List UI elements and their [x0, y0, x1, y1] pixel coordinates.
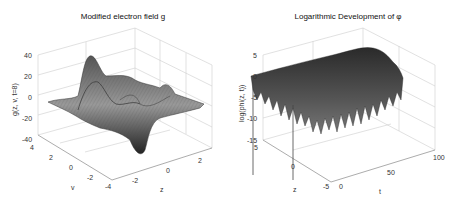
- x-tick: 100: [433, 154, 445, 161]
- left-chart-title: Modified electron field g: [81, 12, 166, 21]
- z-tick: -15: [247, 137, 257, 144]
- z-tick: 0: [253, 73, 257, 80]
- y-tick: 2: [49, 154, 53, 161]
- y-tick: -4: [105, 183, 111, 190]
- x-tick: 2: [198, 157, 202, 164]
- y-tick: -5: [323, 183, 329, 190]
- right-surface-plot: [233, 0, 466, 201]
- left-x-axis-label: z: [160, 186, 164, 193]
- z-tick: 0: [28, 94, 32, 101]
- right-z-axis-label: log(phi(z, t)): [238, 85, 245, 122]
- y-tick: 0: [69, 164, 73, 171]
- y-tick: 4: [30, 144, 34, 151]
- z-tick: -40: [22, 136, 32, 143]
- z-tick: 40: [24, 52, 32, 59]
- y-tick: -2: [87, 174, 93, 181]
- y-tick: 0: [291, 163, 295, 170]
- z-tick: -5: [251, 94, 257, 101]
- x-tick: -2: [132, 177, 138, 184]
- x-tick: 50: [387, 169, 395, 176]
- left-z-axis-label: g(z, v, t=8): [11, 83, 18, 116]
- right-y-axis-label: z: [293, 186, 297, 193]
- z-tick: -10: [247, 115, 257, 122]
- left-plot-panel: Modified electron field g 40 20 0 -20 -4…: [0, 0, 233, 201]
- x-tick: 0: [339, 183, 343, 190]
- right-plot-panel: Logarithmic Development of φ 5 0 -5 -10 …: [233, 0, 466, 201]
- z-tick: -20: [22, 115, 32, 122]
- y-tick: 5: [254, 144, 258, 151]
- z-tick: 5: [253, 52, 257, 59]
- left-surface-plot: [0, 0, 233, 201]
- right-chart-title: Logarithmic Development of φ: [294, 12, 401, 21]
- x-tick: 0: [166, 167, 170, 174]
- right-x-axis-label: t: [379, 188, 381, 195]
- left-y-axis-label: v: [71, 184, 75, 191]
- z-tick: 20: [24, 73, 32, 80]
